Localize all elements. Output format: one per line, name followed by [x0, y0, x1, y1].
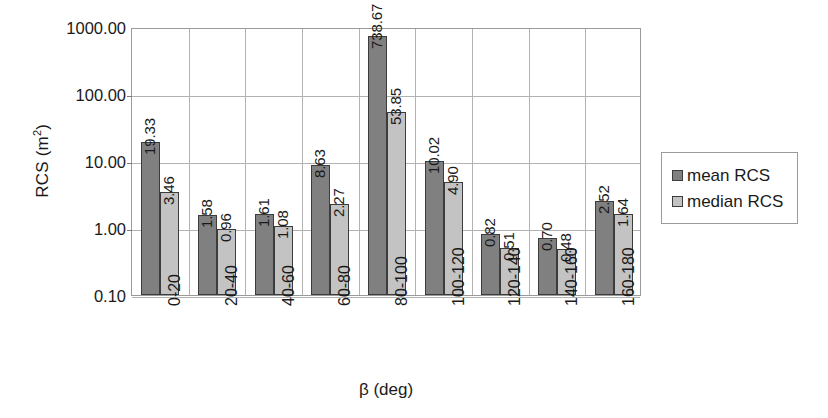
- category-separator: [359, 29, 360, 295]
- bar-value-label: 1.64: [615, 198, 630, 227]
- bar-value-label: 2.52: [596, 185, 611, 214]
- category-separator: [245, 29, 246, 295]
- legend-label: median RCS: [687, 193, 783, 210]
- legend-swatch-mean: [672, 170, 683, 181]
- bar-value-label: 0.96: [218, 213, 233, 242]
- y-tick-label: 1.00: [38, 221, 126, 238]
- x-axis-title: β (deg): [131, 380, 641, 400]
- category-separator: [472, 29, 473, 295]
- bar-value-label: 738.67: [369, 4, 384, 49]
- y-tick-label: 1000.00: [38, 20, 126, 37]
- y-tick-label: 0.10: [38, 288, 126, 305]
- x-tick-label: 100-120: [451, 247, 467, 306]
- y-tick-mark: [127, 96, 132, 97]
- bar-mean: [425, 161, 444, 295]
- x-tick-label: 60-80: [337, 265, 353, 306]
- category-separator: [415, 29, 416, 295]
- legend-swatch-median: [672, 196, 683, 207]
- x-tick-label: 0-20: [167, 274, 183, 306]
- x-tick-label: 80-100: [394, 256, 410, 306]
- bar-value-label: 3.46: [161, 176, 176, 205]
- bar-value-label: 1.58: [199, 199, 214, 228]
- bar-value-label: 10.02: [426, 137, 441, 174]
- y-tick-label: 100.00: [38, 87, 126, 104]
- category-separator: [302, 29, 303, 295]
- x-tick-label: 120-140: [507, 247, 523, 306]
- legend-label: mean RCS: [687, 167, 770, 184]
- x-tick-label: 40-60: [281, 265, 297, 306]
- category-separator: [585, 29, 586, 295]
- y-tick-mark: [127, 230, 132, 231]
- legend-item: median RCS: [672, 188, 783, 214]
- y-axis-tick-labels: 1000.00100.0010.001.000.10: [36, 0, 126, 418]
- bar-mean: [311, 165, 330, 295]
- bar-value-label: 1.08: [275, 210, 290, 239]
- bar-mean: [141, 142, 160, 295]
- category-separator: [189, 29, 190, 295]
- bar-value-label: 8.63: [312, 149, 327, 178]
- bar-value-label: 0.82: [482, 218, 497, 247]
- category-separator: [529, 29, 530, 295]
- rcs-bar-chart: RCS (m2) 1000.00100.0010.001.000.10 19.3…: [0, 0, 828, 418]
- bar-value-label: 2.27: [331, 188, 346, 217]
- x-tick-label: 140-160: [564, 247, 580, 306]
- bar-mean: [368, 36, 387, 295]
- legend-item: mean RCS: [672, 162, 783, 188]
- y-tick-mark: [127, 163, 132, 164]
- bar-value-label: 53.85: [388, 88, 403, 125]
- chart-legend: mean RCSmedian RCS: [661, 152, 798, 224]
- bar-mean: [595, 201, 614, 295]
- bar-value-label: 1.61: [256, 198, 271, 227]
- x-tick-label: 160-180: [621, 247, 637, 306]
- bar-value-label: 0.70: [539, 223, 554, 252]
- y-tick-label: 10.00: [38, 154, 126, 171]
- x-tick-label: 20-40: [224, 265, 240, 306]
- bar-value-label: 19.33: [142, 118, 157, 155]
- bar-value-label: 4.90: [445, 166, 460, 195]
